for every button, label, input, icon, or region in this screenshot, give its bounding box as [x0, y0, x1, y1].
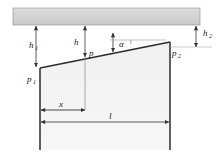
label-p1-base: p: [26, 74, 32, 84]
label-h1-base: h: [29, 40, 34, 50]
label-p2-subscript: 2: [178, 53, 181, 59]
label-p1-subscript: 1: [33, 79, 36, 85]
label-alpha: α: [119, 39, 124, 49]
label-x: x: [58, 99, 63, 109]
figure-container: h 1 h h 2 p p 1 p 2 α x l: [0, 0, 220, 160]
label-h1-subscript: 1: [35, 45, 38, 51]
label-h-base: h: [74, 37, 79, 47]
label-h2-base: h: [203, 28, 208, 38]
label-h2-subscript: 2: [209, 33, 212, 39]
label-p-base: p: [88, 48, 94, 58]
plate-body: [40, 42, 170, 150]
label-p2-base: p: [171, 48, 177, 58]
top-boundary-bar: [13, 8, 200, 25]
diagram-svg: h 1 h h 2 p p 1 p 2 α x l: [0, 0, 220, 160]
